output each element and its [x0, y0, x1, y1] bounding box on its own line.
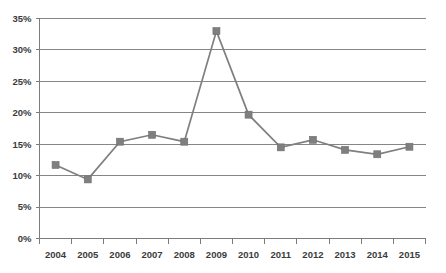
y-tick-label: 20% [12, 107, 32, 118]
x-tick-label: 2014 [367, 249, 389, 260]
x-tick-label: 2011 [270, 249, 291, 260]
data-point-marker [406, 143, 413, 150]
x-tick-label: 2006 [109, 249, 130, 260]
data-point-marker [342, 146, 349, 153]
data-point-marker [277, 144, 284, 151]
x-tick-label: 2009 [206, 249, 227, 260]
x-tick-label: 2015 [399, 249, 421, 260]
x-tick-label: 2013 [335, 249, 356, 260]
data-point-marker [181, 138, 188, 145]
data-point-marker [116, 138, 123, 145]
data-point-marker [374, 151, 381, 158]
x-tick-label: 2004 [45, 249, 67, 260]
x-tick-label: 2010 [238, 249, 259, 260]
y-tick-label: 30% [12, 44, 32, 55]
y-tick-label: 5% [18, 201, 32, 212]
y-tick-label: 10% [12, 170, 32, 181]
y-tick-label: 0% [18, 233, 32, 244]
y-tick-label: 15% [12, 139, 32, 150]
data-point-marker [213, 28, 220, 35]
x-tick-label: 2005 [77, 249, 99, 260]
chart-canvas: 0%5%10%15%20%25%30%35% 20042005200620072… [0, 0, 446, 273]
x-tick-label: 2012 [302, 249, 323, 260]
line-chart: 0%5%10%15%20%25%30%35% 20042005200620072… [0, 0, 446, 273]
x-tick-label: 2007 [142, 249, 163, 260]
data-point-marker [245, 111, 252, 118]
data-point-marker [149, 131, 156, 138]
y-tick-label: 35% [12, 13, 32, 24]
data-point-marker [52, 161, 59, 168]
x-tick-label: 2008 [174, 249, 195, 260]
y-tick-label: 25% [12, 76, 32, 87]
data-point-marker [309, 136, 316, 143]
chart-background [0, 0, 446, 273]
data-point-marker [84, 176, 91, 183]
